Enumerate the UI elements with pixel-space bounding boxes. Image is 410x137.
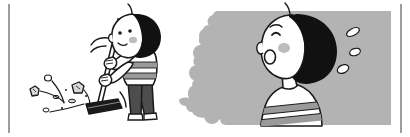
debris-flake-3	[43, 108, 49, 112]
right-panel-worried	[179, 3, 391, 127]
panel-cloud-bump-5	[193, 45, 209, 61]
worried-child-blush	[278, 43, 290, 53]
sweeping-child-shoe-near	[128, 114, 143, 120]
debris-crumb-ring	[45, 75, 52, 81]
cartoon-illustration: Two-panel cartoon: child sweeping with a…	[0, 0, 410, 137]
worried-child-ear	[257, 42, 263, 54]
sweeping-child-blush	[129, 37, 137, 43]
debris-speck-2	[85, 95, 87, 97]
left-border-rule	[8, 4, 10, 133]
panel-cloud-bump-3	[188, 85, 204, 101]
debris-flake-2	[69, 99, 76, 103]
panel-cloud-bump-2	[204, 108, 220, 124]
debris-speck-3	[65, 89, 67, 91]
sweeping-child-eye-left	[118, 31, 122, 35]
panel-cloud-bump-4	[189, 65, 205, 81]
sweeping-child-shoe-far	[144, 113, 157, 120]
worried-child-mouth	[265, 50, 276, 64]
sweeping-child-eye-right	[128, 29, 132, 33]
right-border-rule	[400, 4, 402, 133]
illustration-frame: Two-panel cartoon: child sweeping with a…	[0, 0, 410, 137]
sweeping-child-leg-near	[128, 82, 142, 116]
debris-speck-1	[61, 107, 63, 109]
panel-cloud-bump-7	[208, 14, 224, 30]
panel-cloud-bump-6	[199, 28, 215, 44]
